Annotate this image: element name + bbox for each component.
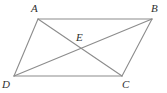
vertex-label-B: B: [151, 3, 158, 14]
parallelogram-svg: [0, 0, 167, 93]
vertex-label-D: D: [2, 79, 10, 90]
diagonal-AC: [38, 19, 122, 76]
vertex-label-A: A: [31, 3, 38, 14]
side-BC: [122, 19, 152, 76]
geometry-figure: A B C D E: [0, 0, 167, 93]
vertex-label-C: C: [122, 79, 129, 90]
vertex-label-E: E: [76, 32, 83, 43]
